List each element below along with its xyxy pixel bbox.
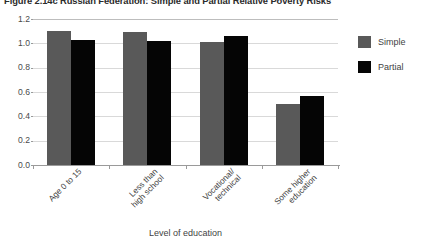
bar-simple-2 [123,32,147,165]
bar-simple-1 [47,31,71,165]
legend-label-partial: Partial [378,62,404,72]
x-category-label-1: Age 0 to 15 [25,167,84,226]
legend-swatch-simple [358,36,371,48]
bar-partial-4 [300,96,324,165]
y-tick-label-0.8: 0.8 [4,63,30,72]
legend-label-simple: Simple [378,37,406,47]
legend-swatch-partial [358,61,371,73]
y-axis-tick-labels: 1.21.00.80.60.40.20.0 [0,19,30,165]
legend-entry-simple: Simple [358,29,428,54]
x-category-label-2: Less than high school [101,167,167,233]
y-tick-label-0.2: 0.2 [4,136,30,145]
figure-title: Figure 2.14c Russian Federation: Simple … [4,0,424,6]
chart-legend: SimplePartial [358,29,428,79]
y-tick-label-0.6: 0.6 [4,88,30,97]
x-category-label-4: Some higher education [254,167,320,233]
figure-container: Figure 2.14c Russian Federation: Simple … [0,0,428,245]
bar-partial-2 [147,41,171,165]
bar-simple-4 [276,104,300,165]
y-tick-label-1.2: 1.2 [4,15,30,24]
gridline-1.2 [33,19,338,20]
y-tick-label-1.0: 1.0 [4,39,30,48]
x-axis-baseline [33,165,340,166]
plot-area [33,19,338,165]
legend-entry-partial: Partial [358,54,428,79]
y-tick-label-0.0: 0.0 [4,161,30,170]
y-tick-label-0.4: 0.4 [4,112,30,121]
bar-partial-3 [224,36,248,165]
x-category-label-3: Vocational/ technical [177,167,243,233]
x-axis-category-labels: Age 0 to 15Less than high schoolVocation… [33,167,338,222]
bar-partial-1 [71,40,95,165]
bar-simple-3 [200,42,224,165]
x-axis-title: Level of education [33,228,338,238]
